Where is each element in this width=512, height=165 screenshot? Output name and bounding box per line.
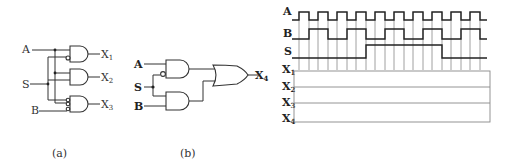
- timing-label-x3: X3: [282, 96, 296, 110]
- timing-label-s: S: [284, 45, 292, 58]
- timing-label-a: A: [282, 5, 292, 18]
- inverter-bubble: [161, 72, 166, 77]
- timing-label-x2: X2: [282, 80, 296, 94]
- circuit-a-input-s-label: S: [22, 78, 30, 91]
- junction-dot: [47, 83, 50, 86]
- circuit-a-output-x1-label: X1: [101, 48, 113, 62]
- circuit-b-output-x4-label: X4: [255, 69, 269, 83]
- inverter-bubble: [66, 107, 70, 111]
- circuit-b-input-a-label: A: [133, 58, 143, 71]
- circuit-a-output-x3-label: X3: [101, 98, 113, 112]
- circuit-b-input-s-label: S: [134, 81, 142, 94]
- waveform-a: [292, 12, 487, 20]
- inverter-bubble: [66, 56, 70, 60]
- and-gate-upper: [166, 60, 189, 78]
- and-gate-1: [70, 46, 88, 62]
- and-gate-2: [70, 69, 88, 85]
- caption-b: (b): [180, 147, 196, 160]
- circuit-b-wire-lower-to-or: [189, 81, 217, 101]
- circuit-a: A S B X1 X2 X3 (a): [21, 43, 113, 160]
- junction-dot: [151, 85, 154, 88]
- circuit-a-output-x2-label: X2: [101, 71, 113, 85]
- waveform-s: [292, 45, 487, 58]
- waveform-b: [292, 29, 487, 39]
- figure-canvas: A S B X1 X2 X3 (a): [0, 0, 512, 165]
- circuit-b-wire-s-bus: [153, 75, 166, 96]
- timing-label-x4: X4: [282, 112, 296, 126]
- and-gate-3: [70, 96, 88, 112]
- timing-label-b: B: [283, 27, 292, 40]
- inverter-bubble: [66, 102, 70, 106]
- inverter-bubble: [66, 98, 70, 102]
- or-gate: [213, 65, 248, 86]
- caption-a: (a): [52, 147, 67, 160]
- junction-dot: [54, 49, 57, 52]
- junction-dot: [54, 72, 57, 75]
- circuit-b: A S B X4 (b): [133, 58, 269, 160]
- timing-label-x1: X1: [282, 63, 296, 77]
- timing-output-box: [294, 71, 490, 122]
- and-gate-lower: [166, 92, 189, 110]
- circuit-a-input-a-label: A: [21, 43, 31, 56]
- circuit-b-input-b-label: B: [134, 100, 143, 113]
- circuit-a-input-b-label: B: [31, 104, 39, 117]
- timing-diagram: A B S: [282, 5, 490, 126]
- circuit-a-wire-s-bus: [48, 57, 68, 100]
